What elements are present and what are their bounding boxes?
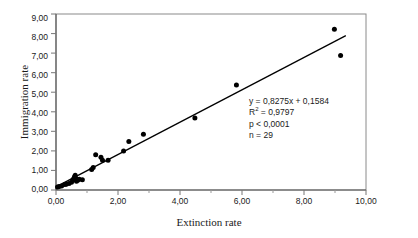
data-point	[338, 53, 343, 58]
p-value: p < 0,0001	[249, 119, 329, 130]
data-point	[93, 152, 98, 157]
data-point	[100, 158, 105, 163]
data-point	[192, 116, 197, 121]
plot-canvas	[0, 0, 418, 238]
data-point	[141, 132, 146, 137]
data-point	[332, 27, 337, 32]
data-point	[57, 184, 62, 189]
scatter-plot-figure: Immigration rate 0,00 1,00 2,00 3,00 4,0…	[0, 0, 418, 238]
x-axis-title: Extinction rate	[0, 216, 418, 228]
data-point	[80, 177, 85, 182]
regression-equation: y = 0,8275x + 0,1584	[249, 96, 329, 107]
data-point	[106, 158, 111, 163]
data-point	[234, 82, 239, 87]
r-squared-line: R2 = 0,9797	[249, 107, 329, 118]
data-point	[91, 165, 96, 170]
statistics-annotation: y = 0,8275x + 0,1584 R2 = 0,9797 p < 0,0…	[249, 96, 329, 142]
sample-size: n = 29	[249, 130, 329, 141]
data-point	[126, 139, 131, 144]
r-squared-value: = 0,9797	[258, 107, 294, 117]
y-tick-marks	[51, 14, 56, 190]
data-point	[121, 148, 126, 153]
